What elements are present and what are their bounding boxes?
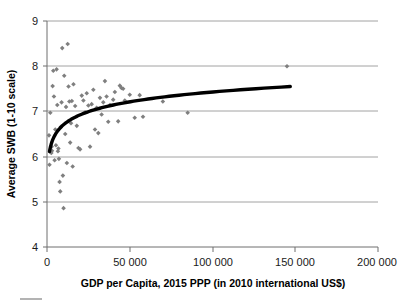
- ytick-label-8: 8: [32, 60, 38, 72]
- ytick-label-5: 5: [32, 196, 38, 208]
- ytick-label-6: 6: [32, 151, 38, 163]
- chart-canvas: 9 8 7 6 5 4 0 50 000 100 000 150 000 200…: [0, 0, 417, 305]
- ytick-label-4: 4: [32, 241, 38, 253]
- ytick-label-9: 9: [32, 15, 38, 27]
- scatter-chart-figure: 9 8 7 6 5 4 0 50 000 100 000 150 000 200…: [0, 0, 417, 305]
- xtick-label-200000: 200 000: [357, 256, 397, 268]
- y-axis-title: Average SWB (1-10 scale): [5, 70, 17, 199]
- ytick-label-7: 7: [32, 105, 38, 117]
- xtick-label-50000: 50 000: [113, 256, 147, 268]
- xtick-label-100000: 100 000: [193, 256, 233, 268]
- xtick-label-150000: 150 000: [275, 256, 315, 268]
- x-axis-title: GDP per Capita, 2015 PPP (in 2010 intern…: [81, 277, 346, 289]
- xtick-label-0: 0: [44, 256, 50, 268]
- page-artifact-mark: [20, 298, 42, 300]
